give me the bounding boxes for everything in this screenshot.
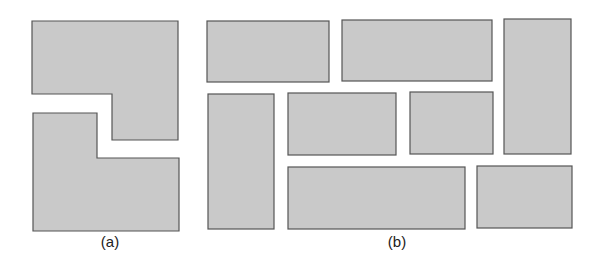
rectangle-3 <box>504 19 571 154</box>
panel-a <box>32 21 179 231</box>
panel-b <box>207 19 572 229</box>
rectangle-6 <box>410 92 493 154</box>
rectangle-5 <box>288 93 396 155</box>
rectangle-1 <box>207 21 329 82</box>
rectangle-7 <box>288 167 465 229</box>
rectangle-4 <box>208 94 274 229</box>
rectangle-2 <box>342 20 492 81</box>
panel-a-label: (a) <box>101 233 119 250</box>
panel-b-label: (b) <box>388 233 406 250</box>
diagram-canvas <box>0 0 601 268</box>
rectangle-8 <box>477 166 572 228</box>
